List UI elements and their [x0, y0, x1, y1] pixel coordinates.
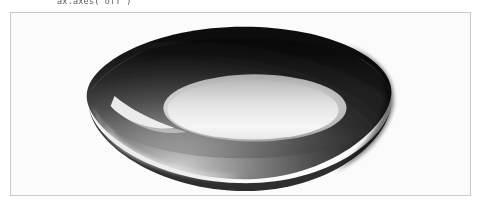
figure-frame	[10, 12, 471, 196]
plot-area	[11, 13, 470, 195]
torus-surface-plot	[11, 13, 470, 195]
code-line: ax.axes('off')	[57, 0, 131, 7]
